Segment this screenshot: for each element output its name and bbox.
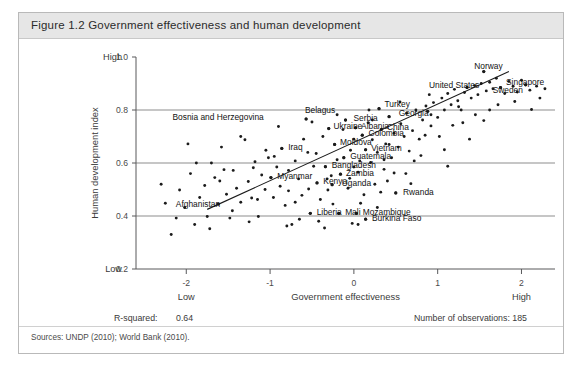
data-point <box>446 165 449 168</box>
data-point <box>424 105 427 108</box>
data-point <box>408 150 411 153</box>
data-point <box>530 108 533 111</box>
data-point <box>461 121 464 124</box>
data-point <box>543 87 546 90</box>
data-point <box>488 109 491 112</box>
data-point <box>267 156 270 159</box>
data-point <box>432 101 435 104</box>
data-point <box>446 92 449 95</box>
data-point <box>327 127 330 130</box>
data-point <box>294 201 297 204</box>
data-point <box>312 165 315 168</box>
data-point <box>476 93 479 96</box>
x-axis-title: Government effectiveness <box>291 291 400 302</box>
country-label: Belagus <box>305 105 335 115</box>
country-label: Sweden <box>493 85 524 95</box>
data-point <box>421 119 424 122</box>
data-point <box>451 124 454 127</box>
data-point <box>379 191 382 194</box>
data-point <box>248 220 251 223</box>
data-point <box>377 107 380 110</box>
data-point <box>225 193 228 196</box>
data-point <box>298 218 301 221</box>
data-point <box>218 180 221 183</box>
x-axis-high-label: High <box>512 292 531 302</box>
data-point <box>351 222 354 225</box>
page-title: Figure 1.2 Government effectiveness and … <box>31 19 361 31</box>
data-point <box>409 182 412 185</box>
data-point <box>411 129 414 132</box>
country-label: Ukraine <box>333 121 362 131</box>
data-point <box>287 189 290 192</box>
data-point <box>208 227 211 230</box>
data-point <box>250 197 253 200</box>
y-axis-low-label: Low <box>105 264 122 274</box>
data-point <box>279 185 282 188</box>
data-point <box>317 220 320 223</box>
data-point <box>187 142 190 145</box>
data-point <box>383 168 386 171</box>
data-point <box>206 215 209 218</box>
data-point <box>430 124 433 127</box>
data-point <box>264 149 267 152</box>
country-label: Georgia <box>399 108 429 118</box>
data-point <box>252 166 255 169</box>
data-point <box>386 180 389 183</box>
data-point <box>239 135 242 138</box>
data-point <box>300 194 303 197</box>
data-point <box>305 117 308 120</box>
figure-title-bar: Figure 1.2 Government effectiveness and … <box>19 13 563 39</box>
figure-container: Figure 1.2 Government effectiveness and … <box>18 12 564 354</box>
data-point <box>357 223 360 226</box>
y-axis-high-label: High <box>103 52 122 62</box>
data-point <box>203 184 206 187</box>
data-point <box>213 176 216 179</box>
data-point <box>373 183 376 186</box>
data-point <box>277 125 280 128</box>
country-label: Liberia <box>317 207 342 217</box>
scatter-chart: 0.20.40.60.81.0-2-1012HighLowLowHighGove… <box>19 39 565 339</box>
data-point <box>257 215 260 218</box>
data-point <box>387 115 390 118</box>
data-point <box>272 196 275 199</box>
data-point <box>243 138 246 141</box>
data-point <box>254 160 257 163</box>
x-tick-label: -1 <box>266 278 274 288</box>
data-point <box>361 134 364 137</box>
data-point <box>223 168 226 171</box>
y-axis-title: Human development index <box>89 107 100 219</box>
data-point <box>309 212 312 215</box>
data-point <box>315 152 318 155</box>
data-point <box>193 223 196 226</box>
data-point <box>235 187 238 190</box>
data-point <box>302 138 305 141</box>
data-point <box>324 165 327 168</box>
data-point <box>239 201 242 204</box>
data-point <box>247 180 250 183</box>
data-point <box>368 109 371 112</box>
data-point <box>336 113 339 116</box>
data-point <box>436 116 439 119</box>
data-point <box>438 135 441 138</box>
data-point <box>393 172 396 175</box>
data-point <box>160 183 163 186</box>
country-label: Myanmar <box>277 171 312 181</box>
data-point <box>428 93 431 96</box>
country-label: Burkina Faso <box>372 213 422 223</box>
data-point <box>170 233 173 236</box>
data-point <box>319 198 322 201</box>
data-point <box>220 146 223 149</box>
x-axis-low-label: Low <box>178 292 195 302</box>
data-point <box>430 113 433 116</box>
country-label: Zambia <box>346 168 374 178</box>
data-point <box>419 154 422 157</box>
data-point <box>485 89 488 92</box>
data-point <box>294 159 297 162</box>
country-label: United States <box>429 80 479 90</box>
country-label: Norway <box>474 61 503 71</box>
data-point <box>443 109 446 112</box>
data-point <box>538 97 541 100</box>
data-point <box>175 217 178 220</box>
data-point <box>326 189 329 192</box>
data-point <box>440 97 443 100</box>
